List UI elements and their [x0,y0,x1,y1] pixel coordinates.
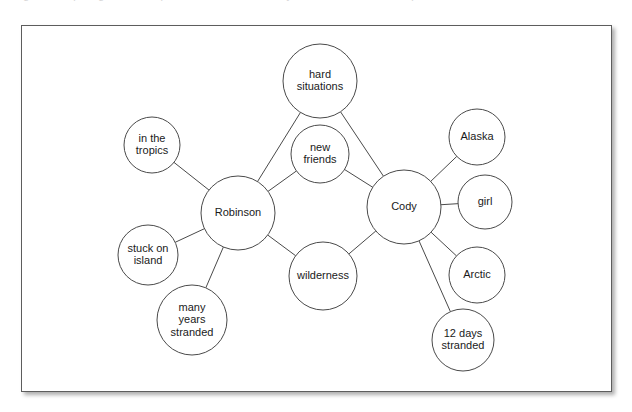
figure-card [21,25,612,392]
cutoff-text: Figure: comparing survival experiences o… [14,0,618,2]
cutoff-text-strip: Figure: comparing survival experiences o… [0,0,632,11]
